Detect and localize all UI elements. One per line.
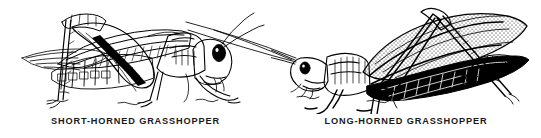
mid-leg [138,72,163,107]
ground-marks [47,92,218,105]
figure-short-horned-grasshopper: SHORT-HORNED GRASSHOPPER [0,0,271,138]
figure-long-horned-grasshopper: LONG-HORNED GRASSHOPPER [271,0,541,138]
hind-tibia [58,20,71,100]
fore-leg [305,90,343,114]
antenna [222,13,264,47]
hind-tarsus [505,94,519,104]
caption-short-horned: SHORT-HORNED GRASSHOPPER [0,116,271,126]
long-horned-grasshopper-drawing [271,0,541,114]
compound-eye [213,45,226,62]
illustration-plate: SHORT-HORNED GRASSHOPPER [0,0,541,138]
antenna [271,18,295,64]
pronotum [324,53,370,95]
compound-eye [300,62,310,74]
caption-long-horned: LONG-HORNED GRASSHOPPER [271,116,541,126]
hind-femur-knee [62,14,106,31]
head [291,58,328,91]
short-horned-grasshopper-drawing [0,0,271,114]
fore-leg-far [184,74,189,102]
